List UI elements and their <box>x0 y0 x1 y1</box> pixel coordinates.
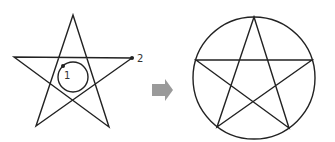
outer-circle <box>193 17 315 139</box>
point-2-marker <box>130 56 134 60</box>
point-1-label: 1 <box>64 70 70 81</box>
right-pentagram <box>196 17 312 128</box>
left-pentagram <box>14 15 132 127</box>
diagram-canvas: 1 2 <box>0 0 335 142</box>
left-figure <box>14 15 132 127</box>
right-figure <box>193 17 315 139</box>
point-1-marker <box>61 64 65 68</box>
point-2-label: 2 <box>137 53 143 64</box>
right-arrow-icon <box>152 79 173 101</box>
